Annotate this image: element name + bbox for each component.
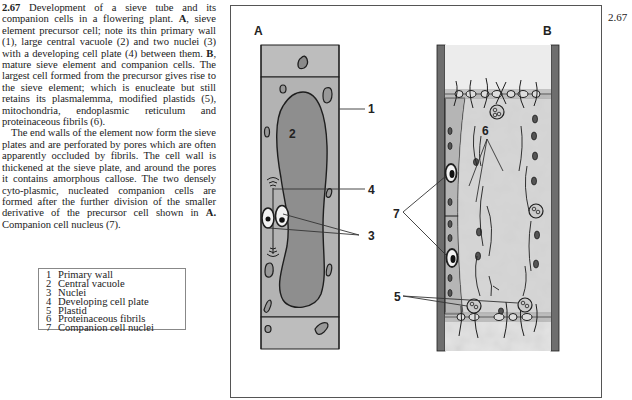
- callout-5: 5: [394, 290, 401, 304]
- callout-6: 6: [482, 124, 489, 138]
- figure-legend: 1Primary wall 2Central vacuole 3Nuclei 4…: [38, 268, 186, 330]
- figure-frame: A 2: [230, 5, 602, 398]
- panel-b: B: [393, 24, 559, 351]
- panel-a-label: A: [254, 24, 263, 38]
- callout-1: 1: [368, 102, 375, 116]
- callout-4: 4: [368, 183, 375, 197]
- panel-b-label: B: [543, 24, 552, 38]
- sieve-tube-illustration: A 2: [231, 6, 603, 399]
- callout-3: 3: [368, 229, 375, 243]
- figure-number: 2.67: [608, 11, 627, 23]
- callout-7: 7: [393, 207, 400, 221]
- panel-a: A 2: [254, 24, 375, 349]
- caption-paragraph-2: The end walls of the element now form th…: [2, 127, 216, 230]
- callout-2: 2: [289, 127, 296, 141]
- figure-caption: 2.67 Development of a sieve tube and its…: [2, 2, 216, 230]
- caption-paragraph-1: 2.67 Development of a sieve tube and its…: [2, 2, 216, 127]
- caption-figure-number: 2.67: [2, 2, 20, 13]
- legend-item: 7Companion cell nuclei: [39, 324, 185, 333]
